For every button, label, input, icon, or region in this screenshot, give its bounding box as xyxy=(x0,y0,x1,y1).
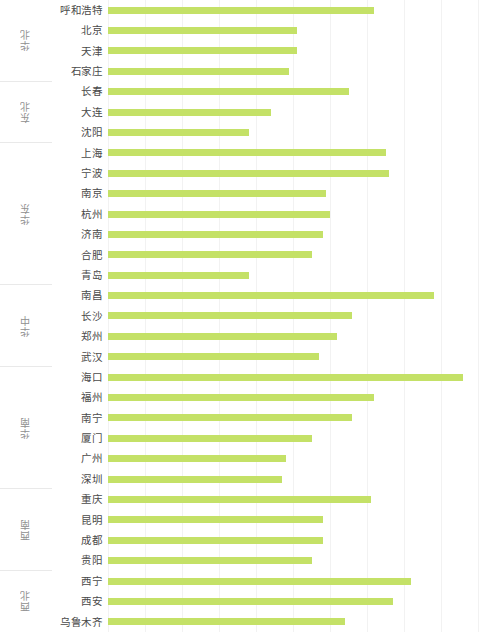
bar xyxy=(108,47,297,54)
bar-track xyxy=(108,103,482,121)
bar xyxy=(108,272,249,279)
bar xyxy=(108,578,411,585)
bar-track xyxy=(108,327,482,345)
bar-track xyxy=(108,348,482,366)
bar xyxy=(108,353,319,360)
bar-row: 昆明 xyxy=(52,510,482,530)
bar-track xyxy=(108,42,482,60)
bar-track xyxy=(108,409,482,427)
category-label: 深圳 xyxy=(52,474,108,485)
bar-row: 南昌 xyxy=(52,285,482,305)
category-label: 宁波 xyxy=(52,168,108,179)
category-label: 西安 xyxy=(52,596,108,607)
category-label: 昆明 xyxy=(52,515,108,526)
bar xyxy=(108,496,371,503)
bar-track xyxy=(108,124,482,142)
bar xyxy=(108,231,323,238)
bar xyxy=(108,211,330,218)
bar-track xyxy=(108,225,482,243)
category-label: 北京 xyxy=(52,25,108,36)
bar xyxy=(108,109,271,116)
bar-row: 宁波 xyxy=(52,163,482,183)
bar xyxy=(108,129,249,136)
category-label: 南宁 xyxy=(52,413,108,424)
region-group-2: 华东 xyxy=(0,143,52,286)
bar-track xyxy=(108,470,482,488)
category-label: 乌鲁木齐 xyxy=(52,617,108,628)
bar xyxy=(108,292,434,299)
bar-track xyxy=(108,164,482,182)
region-group-3: 华中 xyxy=(0,285,52,367)
category-label: 贵阳 xyxy=(52,555,108,566)
bar-row: 西安 xyxy=(52,591,482,611)
region-group-label: 西南 xyxy=(21,519,31,541)
bar-track xyxy=(108,83,482,101)
bar-row: 沈阳 xyxy=(52,122,482,142)
category-label: 郑州 xyxy=(52,331,108,342)
bar-row: 南京 xyxy=(52,183,482,203)
bar-track xyxy=(108,62,482,80)
region-group-label: 华南 xyxy=(21,417,31,439)
bar xyxy=(108,476,282,483)
bar-track xyxy=(108,552,482,570)
bar xyxy=(108,516,323,523)
category-label: 厦门 xyxy=(52,433,108,444)
bar-row: 上海 xyxy=(52,143,482,163)
bar-track xyxy=(108,429,482,447)
bar-row: 厦门 xyxy=(52,428,482,448)
bar-row: 成都 xyxy=(52,530,482,550)
bar xyxy=(108,333,337,340)
category-label: 南京 xyxy=(52,188,108,199)
region-group-label: 西北 xyxy=(21,590,31,612)
region-group-6: 西北 xyxy=(0,571,52,632)
bar-track xyxy=(108,246,482,264)
category-label: 成都 xyxy=(52,535,108,546)
bar xyxy=(108,435,312,442)
bar xyxy=(108,312,352,319)
bar-row: 海口 xyxy=(52,367,482,387)
bar xyxy=(108,68,289,75)
category-label: 大连 xyxy=(52,107,108,118)
bar-row: 长春 xyxy=(52,82,482,102)
region-group-1: 东北 xyxy=(0,82,52,143)
region-group-4: 华南 xyxy=(0,367,52,489)
region-group-label: 华东 xyxy=(21,203,31,225)
bar xyxy=(108,618,345,625)
bar-track xyxy=(108,185,482,203)
bar-row: 大连 xyxy=(52,102,482,122)
region-group-0: 华北 xyxy=(0,0,52,82)
bar-track xyxy=(108,389,482,407)
bar xyxy=(108,7,374,14)
category-label: 济南 xyxy=(52,229,108,240)
bar-track xyxy=(108,592,482,610)
bar-track xyxy=(108,450,482,468)
category-label: 合肥 xyxy=(52,250,108,261)
category-label: 武汉 xyxy=(52,352,108,363)
bar xyxy=(108,394,374,401)
category-label: 南昌 xyxy=(52,290,108,301)
bar-row: 广州 xyxy=(52,449,482,469)
bar-row: 呼和浩特 xyxy=(52,0,482,20)
bar-track xyxy=(108,368,482,386)
bar xyxy=(108,190,326,197)
category-label: 天津 xyxy=(52,46,108,57)
region-group-column: 华北东北华东华中华南西南西北 xyxy=(0,0,52,632)
bar-row: 长沙 xyxy=(52,306,482,326)
bar-row: 合肥 xyxy=(52,245,482,265)
bar xyxy=(108,455,286,462)
category-label: 西宁 xyxy=(52,576,108,587)
region-group-5: 西南 xyxy=(0,489,52,571)
category-label: 沈阳 xyxy=(52,127,108,138)
bar-track xyxy=(108,266,482,284)
category-label: 重庆 xyxy=(52,494,108,505)
bar xyxy=(108,88,349,95)
bar xyxy=(108,598,393,605)
bar-row: 福州 xyxy=(52,387,482,407)
bar-track xyxy=(108,287,482,305)
plot-area: 呼和浩特北京天津石家庄长春大连沈阳上海宁波南京杭州济南合肥青岛南昌长沙郑州武汉海… xyxy=(52,0,482,632)
bar-row: 北京 xyxy=(52,20,482,40)
bar-track xyxy=(108,531,482,549)
bar-track xyxy=(108,572,482,590)
bar xyxy=(108,27,297,34)
bar xyxy=(108,374,463,381)
